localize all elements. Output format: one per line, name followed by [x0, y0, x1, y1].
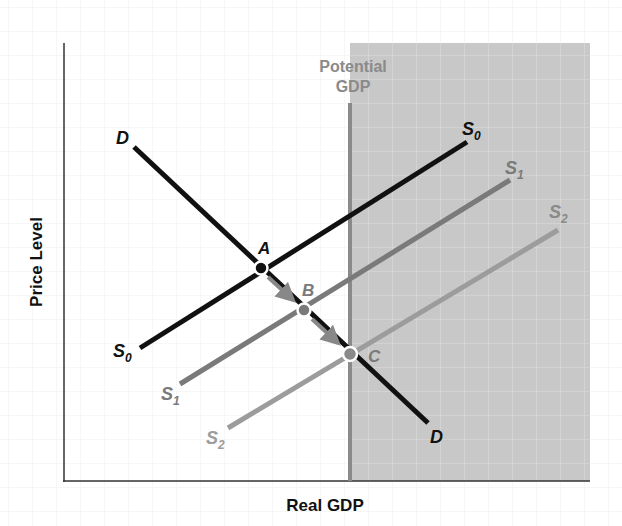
svg-text:S: S: [505, 158, 517, 178]
x-axis-title: Real GDP: [286, 496, 363, 515]
svg-text:1: 1: [173, 394, 180, 408]
point-c: [343, 347, 357, 361]
potential-gdp-label-1: Potential: [319, 58, 387, 75]
svg-text:2: 2: [560, 212, 568, 226]
svg-text:0: 0: [125, 351, 132, 365]
svg-text:2: 2: [217, 438, 225, 452]
point-b: [298, 304, 311, 317]
svg-text:1: 1: [517, 168, 524, 182]
label-d-top: D: [116, 128, 129, 148]
label-d-bottom: D: [430, 427, 443, 447]
svg-text:S: S: [206, 428, 218, 448]
point-a: [255, 262, 268, 275]
label-b: B: [302, 281, 314, 300]
chart-canvas: Potential GDP A B C D D S 0 S 0 S 1 S 1 …: [0, 0, 622, 526]
y-axis-title: Price Level: [27, 217, 46, 307]
svg-text:S: S: [462, 119, 474, 139]
svg-text:S: S: [161, 384, 173, 404]
svg-text:0: 0: [474, 129, 481, 143]
beyond-potential-region: [350, 43, 590, 481]
svg-text:S: S: [113, 341, 125, 361]
svg-text:S: S: [549, 202, 561, 222]
plot-grid: [64, 43, 350, 481]
label-c: C: [368, 347, 381, 366]
potential-gdp-label-2: GDP: [336, 78, 371, 95]
label-a: A: [257, 239, 270, 258]
